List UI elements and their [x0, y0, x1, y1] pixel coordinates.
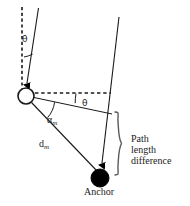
d-m-label: dm	[39, 138, 49, 150]
d-subscript: m	[44, 143, 49, 151]
anchor-node-circle	[91, 169, 109, 187]
alpha-m-label: αm	[47, 114, 57, 126]
distance-segment-dm	[32, 103, 98, 172]
mobile-node-circle	[18, 88, 34, 104]
theta-label-top: θ	[22, 34, 28, 44]
path-length-difference-brace	[115, 112, 122, 175]
anchor-label: Anchor	[84, 186, 114, 197]
baseline-segment-to-right-ray	[34, 98, 112, 115]
theta-label-mid: θ	[82, 98, 88, 108]
path-length-difference-label: Path length difference	[131, 133, 171, 167]
alpha-subscript: m	[52, 119, 57, 127]
incoming-ray-right	[102, 17, 119, 163]
path-length-difference-diagram: θ θ αm dm Path length difference Anchor	[0, 0, 190, 206]
incoming-ray-left	[27, 8, 39, 83]
path-length-difference-line-2: length	[131, 144, 171, 155]
path-length-difference-line-3: difference	[131, 155, 171, 166]
theta-arc-mid	[75, 94, 76, 104]
diagram-canvas	[0, 0, 190, 206]
path-length-difference-line-1: Path	[131, 133, 171, 144]
